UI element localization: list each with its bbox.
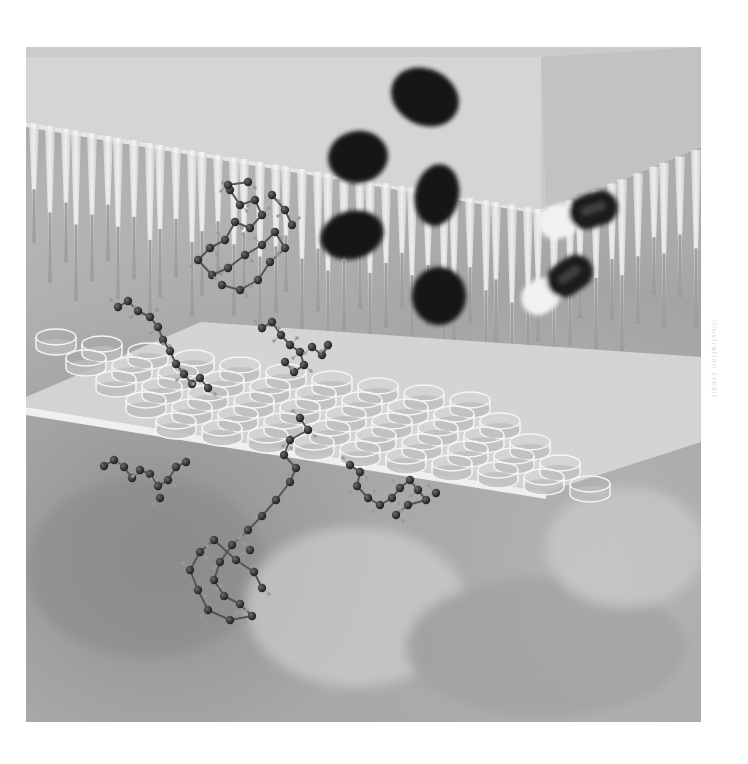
- hydrogen-atom: [205, 556, 209, 560]
- hydrogen-atom: [348, 490, 352, 494]
- hydrogen-atom: [211, 566, 215, 570]
- atom: [241, 251, 249, 259]
- hydrogen-atom: [253, 186, 257, 190]
- hydrogen-atom: [287, 472, 291, 476]
- hydrogen-atom: [272, 339, 276, 343]
- hydrogen-atom: [373, 489, 377, 493]
- atom: [146, 470, 154, 478]
- hydrogen-atom: [267, 491, 271, 495]
- hydrogen-atom: [241, 541, 245, 545]
- hydrogen-atom: [249, 284, 253, 288]
- hydrogen-atom: [191, 382, 195, 386]
- hydrogen-atom: [399, 509, 403, 513]
- pipette-tip: [33, 189, 36, 243]
- hydrogen-atom: [303, 351, 307, 355]
- hydrogen-atom: [267, 206, 271, 210]
- atom: [110, 456, 118, 464]
- atom: [124, 297, 132, 305]
- atom: [196, 374, 204, 382]
- atom: [346, 461, 354, 469]
- hydrogen-atom: [281, 444, 285, 448]
- atom: [224, 181, 232, 189]
- atom: [281, 206, 289, 214]
- atom: [244, 526, 252, 534]
- hydrogen-atom: [277, 326, 281, 330]
- hydrogen-atom: [313, 434, 317, 438]
- hydrogen-atom: [291, 409, 295, 413]
- hydrogen-atom: [250, 259, 254, 263]
- atom: [172, 463, 180, 471]
- atom: [154, 323, 162, 331]
- atom: [248, 612, 256, 620]
- atom: [154, 482, 162, 490]
- atom: [281, 244, 289, 252]
- atom: [224, 264, 232, 272]
- pipette-tip: [343, 261, 346, 330]
- pipette-tip: [149, 240, 152, 319]
- atom: [228, 541, 236, 549]
- atom: [186, 566, 194, 574]
- atom: [156, 494, 164, 502]
- atom: [136, 466, 144, 474]
- atom: [304, 426, 312, 434]
- hydrogen-atom: [277, 199, 281, 203]
- atom: [246, 224, 254, 232]
- atom: [280, 451, 288, 459]
- atom: [220, 592, 228, 600]
- atom: [258, 324, 266, 332]
- atom: [196, 548, 204, 556]
- hydrogen-atom: [203, 594, 207, 598]
- atom: [258, 241, 266, 249]
- pipette-tip: [133, 217, 136, 280]
- hydrogen-atom: [427, 484, 431, 488]
- atom: [272, 496, 280, 504]
- pipette-tip: [401, 253, 404, 308]
- hydrogen-atom: [291, 356, 295, 360]
- atom: [404, 501, 412, 509]
- hydrogen-atom: [371, 509, 375, 513]
- pipette-tip: [191, 242, 194, 317]
- atom: [251, 196, 259, 204]
- hydrogen-atom: [276, 214, 280, 218]
- hydrogen-atom: [217, 266, 221, 270]
- atom: [194, 586, 202, 594]
- atom: [244, 178, 252, 186]
- atom: [296, 414, 304, 422]
- hydrogen-atom: [199, 614, 203, 618]
- atom: [364, 494, 372, 502]
- hydrogen-atom: [149, 477, 153, 481]
- atom: [218, 281, 226, 289]
- hydrogen-atom: [391, 479, 395, 483]
- pipette-tip: [663, 254, 666, 328]
- hydrogen-atom: [365, 476, 369, 480]
- hydrogen-atom: [175, 378, 179, 382]
- hydrogen-atom: [289, 446, 293, 450]
- hydrogen-atom: [219, 189, 223, 193]
- atom: [353, 482, 361, 490]
- hydrogen-atom: [95, 457, 99, 461]
- hydrogen-atom: [241, 551, 245, 555]
- hydrogen-atom: [280, 236, 284, 240]
- side-credit-text: illustration credit: [706, 320, 718, 520]
- hydrogen-atom: [131, 474, 135, 478]
- hydrogen-atom: [215, 252, 219, 256]
- atom: [204, 384, 212, 392]
- atom: [392, 511, 400, 519]
- pipette-tip: [243, 233, 246, 294]
- atom: [216, 558, 224, 566]
- atom: [100, 462, 108, 470]
- hydrogen-atom: [167, 471, 171, 475]
- pipette-tip: [75, 225, 78, 302]
- pipette-tip: [317, 249, 320, 312]
- hydrogen-atom: [213, 276, 217, 280]
- atom: [292, 464, 300, 472]
- hydrogen-atom: [243, 620, 247, 624]
- atom: [232, 556, 240, 564]
- atom: [268, 191, 276, 199]
- atom: [226, 616, 234, 624]
- atom: [288, 221, 296, 229]
- atom: [258, 584, 266, 592]
- hydrogen-atom: [341, 456, 345, 460]
- atom: [146, 313, 154, 321]
- atom: [286, 341, 294, 349]
